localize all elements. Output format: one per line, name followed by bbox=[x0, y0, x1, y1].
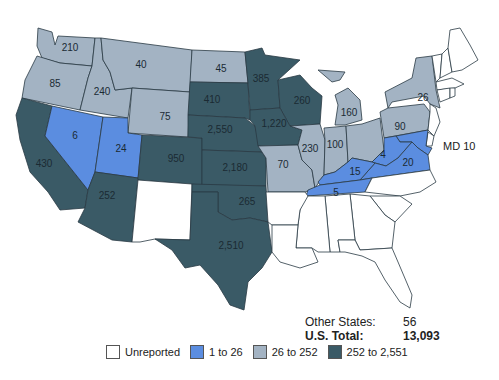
legend-swatch-26-252 bbox=[253, 345, 267, 359]
label-ia: 1,220 bbox=[261, 118, 286, 129]
legend-item-26-252: 26 to 252 bbox=[253, 345, 318, 359]
other-states-value: 56 bbox=[403, 315, 416, 329]
other-states-row: Other States: 56 bbox=[305, 315, 440, 329]
us-total-row: U.S. Total: 13,093 bbox=[305, 329, 440, 343]
legend-item-252-2551: 252 to 2,551 bbox=[328, 345, 408, 359]
label-ut: 24 bbox=[115, 143, 127, 154]
label-ne: 2,550 bbox=[207, 124, 232, 135]
label-wi: 260 bbox=[294, 95, 311, 106]
state-fl[interactable] bbox=[338, 240, 412, 308]
state-nj[interactable] bbox=[428, 104, 440, 136]
label-mn: 385 bbox=[253, 73, 270, 84]
legend-item-unreported: Unreported bbox=[106, 345, 180, 359]
legend-label: 252 to 2,551 bbox=[347, 346, 408, 358]
label-co: 950 bbox=[168, 153, 185, 164]
label-ca: 430 bbox=[36, 158, 53, 169]
label-id: 240 bbox=[94, 86, 111, 97]
state-ri[interactable] bbox=[450, 88, 455, 98]
label-il: 230 bbox=[302, 143, 319, 154]
legend-label: 1 to 26 bbox=[209, 346, 243, 358]
label-wy: 75 bbox=[159, 111, 171, 122]
label-wv: 4 bbox=[380, 149, 386, 160]
state-nm[interactable] bbox=[132, 180, 192, 242]
legend: Unreported 1 to 26 26 to 252 252 to 2,55… bbox=[106, 345, 418, 359]
label-nd: 45 bbox=[215, 63, 227, 74]
state-ny[interactable] bbox=[385, 56, 440, 108]
us-total-label: U.S. Total: bbox=[305, 329, 403, 343]
label-mo: 70 bbox=[277, 159, 289, 170]
label-ky: 15 bbox=[349, 166, 361, 177]
label-pa: 90 bbox=[394, 121, 406, 132]
label-ok: 265 bbox=[239, 196, 256, 207]
label-nv: 6 bbox=[72, 130, 78, 141]
label-mi: 160 bbox=[341, 107, 358, 118]
label-va: 20 bbox=[402, 157, 414, 168]
state-ct[interactable] bbox=[437, 88, 450, 102]
legend-item-1-26: 1 to 26 bbox=[190, 345, 243, 359]
legend-swatch-252-2551 bbox=[328, 345, 342, 359]
label-sd: 410 bbox=[204, 94, 221, 105]
label-mt: 40 bbox=[135, 59, 147, 70]
label-tn: 5 bbox=[333, 187, 339, 198]
state-me[interactable] bbox=[448, 28, 478, 72]
label-az: 252 bbox=[99, 190, 116, 201]
legend-swatch-unreported bbox=[106, 345, 120, 359]
us-total-value: 13,093 bbox=[403, 329, 440, 343]
legend-label: Unreported bbox=[125, 346, 180, 358]
legend-label: 26 to 252 bbox=[272, 346, 318, 358]
totals-block: Other States: 56 U.S. Total: 13,093 bbox=[305, 315, 440, 343]
other-states-label: Other States: bbox=[305, 315, 403, 329]
label-ks: 2,180 bbox=[222, 162, 247, 173]
label-tx: 2,510 bbox=[218, 240, 243, 251]
label-ny: 26 bbox=[417, 92, 429, 103]
label-or: 85 bbox=[49, 78, 61, 89]
md-callout: MD 10 bbox=[443, 140, 475, 152]
legend-swatch-1-26 bbox=[190, 345, 204, 359]
label-wa: 210 bbox=[62, 42, 79, 53]
label-in: 100 bbox=[327, 139, 344, 150]
